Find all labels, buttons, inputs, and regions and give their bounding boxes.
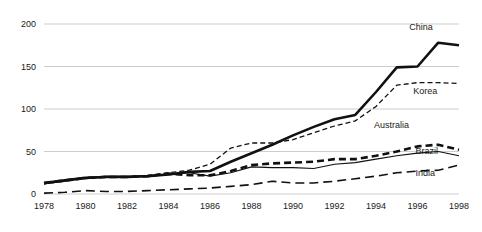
- series-line-brazil: [44, 152, 459, 184]
- x-axis-tick-label: 1980: [75, 201, 95, 211]
- series-label-china: China: [409, 22, 433, 32]
- x-axis-tick-label: 1994: [366, 201, 386, 211]
- series-label-korea: Korea: [413, 86, 437, 96]
- y-axis-tick-label: 50: [26, 147, 36, 157]
- x-axis-tick-label: 1982: [117, 201, 137, 211]
- x-axis-tick-label: 1988: [241, 201, 261, 211]
- x-axis-tick-label: 1984: [158, 201, 178, 211]
- series-line-china: [44, 43, 459, 183]
- x-axis-tick-label: 1990: [283, 201, 303, 211]
- x-axis-labels-group: 1978198019821984198619881990199219941996…: [34, 201, 469, 211]
- series-label-brazil: Brazil: [415, 146, 438, 156]
- x-axis-tick-label: 1992: [324, 201, 344, 211]
- series-label-australia: Australia: [374, 120, 409, 130]
- x-axis-tick-label: 1978: [34, 201, 54, 211]
- series-label-india: India: [415, 168, 435, 178]
- y-axis-tick-label: 100: [21, 104, 36, 114]
- x-axis-tick-label: 1998: [449, 201, 469, 211]
- y-axis-tick-label: 0: [31, 189, 36, 199]
- y-axis-tick-label: 200: [21, 19, 36, 29]
- y-axis-labels-group: 050100150200: [21, 19, 36, 199]
- chart-canvas: 050100150200 197819801982198419861988199…: [0, 0, 482, 232]
- series-line-korea: [44, 83, 459, 184]
- y-axis-tick-label: 150: [21, 62, 36, 72]
- line-chart: 050100150200 197819801982198419861988199…: [0, 0, 482, 232]
- x-axis-tick-label: 1986: [200, 201, 220, 211]
- x-axis-tick-label: 1996: [407, 201, 427, 211]
- gridlines-group: [44, 24, 459, 194]
- series-lines-group: [44, 43, 459, 193]
- series-line-india: [44, 165, 459, 193]
